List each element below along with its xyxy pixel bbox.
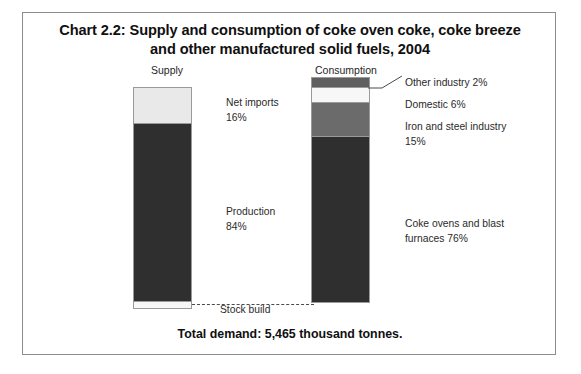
label-production-line-1: Production <box>226 205 275 220</box>
supply-segment-production <box>134 123 191 301</box>
label-net-imports-line-2: 16% <box>226 111 279 126</box>
label-net-imports: Net imports 16% <box>226 96 279 125</box>
chart-frame: Chart 2.2: Supply and consumption of cok… <box>22 12 556 355</box>
label-coke-ovens-line-2: furnaces 76% <box>405 232 504 247</box>
consumption-stacked-bar <box>311 77 370 303</box>
label-net-imports-line-1: Net imports <box>226 96 279 111</box>
label-production: Production 84% <box>226 205 275 234</box>
label-domestic: Domestic 6% <box>405 98 466 113</box>
consumption-segment-iron-and-steel <box>312 102 369 136</box>
consumption-segment-coke-ovens-blast-furnaces <box>312 136 369 302</box>
total-demand-footer: Total demand: 5,465 thousand tonnes. <box>23 327 557 341</box>
label-iron-and-steel-line-2: 15% <box>405 135 506 150</box>
consumption-segment-other-industry <box>312 78 369 87</box>
label-production-line-2: 84% <box>226 220 275 235</box>
label-coke-ovens-and-blast-furnaces: Coke ovens and blast furnaces 76% <box>405 217 504 246</box>
label-other-industry: Other industry 2% <box>405 76 487 91</box>
label-iron-and-steel-line-1: Iron and steel industry <box>405 120 506 135</box>
consumption-segment-domestic <box>312 87 369 102</box>
chart-title: Chart 2.2: Supply and consumption of cok… <box>37 21 543 60</box>
supply-column-heading: Supply <box>151 64 183 76</box>
label-coke-ovens-line-1: Coke ovens and blast <box>405 217 504 232</box>
chart-title-line-1: Chart 2.2: Supply and consumption of cok… <box>37 21 543 40</box>
consumption-column-heading: Consumption <box>315 64 377 76</box>
supply-segment-net-imports <box>134 88 191 123</box>
supply-stacked-bar <box>133 87 192 309</box>
other-industry-leader-line <box>368 75 404 89</box>
chart-title-line-2: and other manufactured solid fuels, 2004 <box>37 40 543 59</box>
label-stock-build: Stock build <box>220 303 270 318</box>
label-iron-and-steel-industry: Iron and steel industry 15% <box>405 120 506 149</box>
supply-segment-stock-build <box>134 301 191 308</box>
